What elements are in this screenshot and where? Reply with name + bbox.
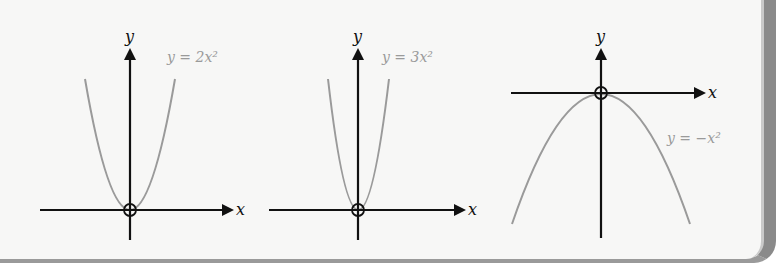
equation-label: y = 3x²: [381, 49, 433, 65]
x-axis-label: x: [708, 83, 717, 102]
equation-label: y = 2x²: [166, 49, 218, 65]
graph-3: x y y = −x²: [511, 27, 721, 238]
y-axis-arrow-icon: [595, 48, 607, 60]
x-axis-arrow-icon: [454, 204, 466, 216]
y-axis-label: y: [352, 27, 363, 46]
equation-label: y = −x²: [666, 130, 721, 146]
graph-2: x y y = 3x²: [269, 27, 477, 240]
x-axis-label: x: [468, 200, 477, 219]
parabola-graphs: x y y = 2x² x y y = 3x² x y y = −x²: [0, 0, 778, 269]
graph-1: x y y = 2x²: [40, 27, 245, 240]
x-axis-arrow-icon: [222, 204, 234, 216]
y-axis-label: y: [595, 27, 606, 46]
x-axis-label: x: [236, 200, 245, 219]
y-axis-arrow-icon: [124, 48, 136, 60]
x-axis-arrow-icon: [694, 87, 706, 99]
diagram-panel: x y y = 2x² x y y = 3x² x y y = −x²: [0, 0, 778, 269]
y-axis-label: y: [124, 27, 135, 46]
y-axis-arrow-icon: [352, 48, 364, 60]
